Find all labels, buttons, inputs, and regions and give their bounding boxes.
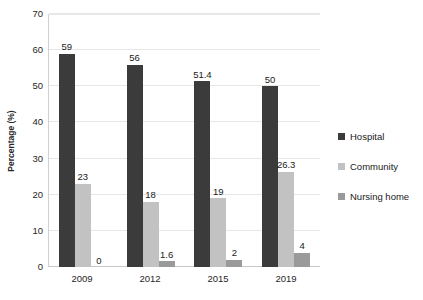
bar-rect xyxy=(210,198,226,267)
y-tick-label: 60 xyxy=(32,44,43,55)
bar-value-label: 1.6 xyxy=(160,250,173,260)
bar-community[interactable]: 19 xyxy=(210,15,226,267)
x-tick-label: 2019 xyxy=(252,269,320,284)
bar-rect xyxy=(294,253,310,267)
bar-hospital[interactable]: 50 xyxy=(262,15,278,267)
legend-item-nursing-home[interactable]: Nursing home xyxy=(338,191,422,202)
y-tick-label: 10 xyxy=(32,224,43,235)
legend-label: Nursing home xyxy=(350,191,409,202)
bar-hospital[interactable]: 51.4 xyxy=(194,15,210,267)
bar-value-label: 2 xyxy=(232,248,237,258)
bar-community[interactable]: 23 xyxy=(75,15,91,267)
y-axis-title: Percentage (%) xyxy=(2,0,20,282)
y-axis-title-text: Percentage (%) xyxy=(6,110,16,171)
x-tick-label: 2009 xyxy=(48,269,116,284)
y-tick-label: 0 xyxy=(38,261,43,272)
bar-rect xyxy=(59,54,75,267)
y-tick-label: 20 xyxy=(32,188,43,199)
legend-label: Community xyxy=(350,161,398,172)
bar-rect xyxy=(278,172,294,267)
bar-nursing-home[interactable]: 0 xyxy=(91,15,107,267)
bar-community[interactable]: 26.3 xyxy=(278,15,294,267)
y-tick-label: 40 xyxy=(32,116,43,127)
bar-group: 59230 xyxy=(49,15,117,267)
y-tick-label: 30 xyxy=(32,152,43,163)
plot-area: 010203040506070 5923056181.651.41925026.… xyxy=(48,14,320,267)
bar-value-label: 51.4 xyxy=(193,70,212,80)
bar-value-label: 26.3 xyxy=(277,160,296,170)
chart-legend: HospitalCommunityNursing home xyxy=(338,131,422,221)
x-axis: 2009201220152019 xyxy=(48,269,320,284)
bar-rect xyxy=(226,260,242,267)
bar-value-label: 56 xyxy=(129,53,140,63)
gridline: 70 xyxy=(49,13,320,14)
bar-rect xyxy=(75,184,91,267)
bar-rect xyxy=(262,86,278,267)
bar-rect xyxy=(143,202,159,267)
bar-nursing-home[interactable]: 1.6 xyxy=(159,15,175,267)
bar-value-label: 0 xyxy=(96,256,101,266)
bar-groups: 5923056181.651.41925026.34 xyxy=(49,15,320,267)
bar-rect xyxy=(159,261,175,267)
bar-value-label: 23 xyxy=(78,172,89,182)
bar-rect xyxy=(194,81,210,267)
y-tick-label: 70 xyxy=(32,8,43,19)
bar-hospital[interactable]: 59 xyxy=(59,15,75,267)
x-tick-label: 2015 xyxy=(184,269,252,284)
bar-nursing-home[interactable]: 2 xyxy=(226,15,242,267)
bar-value-label: 4 xyxy=(299,241,304,251)
bar-chart: Percentage (%) 010203040506070 592305618… xyxy=(0,0,423,300)
legend-swatch-icon xyxy=(338,133,345,140)
bar-community[interactable]: 18 xyxy=(143,15,159,267)
legend-swatch-icon xyxy=(338,193,345,200)
bar-value-label: 50 xyxy=(265,75,276,85)
bar-value-label: 19 xyxy=(213,187,224,197)
legend-swatch-icon xyxy=(338,163,345,170)
bar-rect xyxy=(127,65,143,267)
bar-value-label: 18 xyxy=(145,190,156,200)
y-tick-label: 50 xyxy=(32,80,43,91)
legend-label: Hospital xyxy=(350,131,384,142)
bar-group: 51.4192 xyxy=(185,15,253,267)
bar-value-label: 59 xyxy=(62,42,73,52)
legend-item-community[interactable]: Community xyxy=(338,161,422,172)
legend-item-hospital[interactable]: Hospital xyxy=(338,131,422,142)
bar-group: 5026.34 xyxy=(252,15,320,267)
x-tick-label: 2012 xyxy=(116,269,184,284)
bar-nursing-home[interactable]: 4 xyxy=(294,15,310,267)
bar-hospital[interactable]: 56 xyxy=(127,15,143,267)
bar-group: 56181.6 xyxy=(117,15,185,267)
